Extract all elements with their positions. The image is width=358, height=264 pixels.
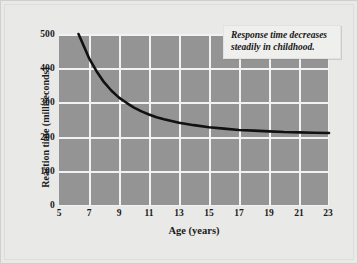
- x-tick-label: 5: [46, 208, 72, 218]
- annotation-line-1: Response time decreases: [231, 30, 327, 40]
- x-tick-label: 7: [76, 208, 102, 218]
- plot-area: [59, 34, 329, 206]
- x-axis-title: Age (years): [59, 225, 329, 236]
- y-tick-label: 400: [15, 63, 55, 73]
- y-tick-label: 500: [15, 29, 55, 39]
- chart-figure: Reaction time (milliseconds) 500 400 300…: [0, 0, 358, 264]
- x-tick-label: 11: [136, 208, 162, 218]
- annotation-text: Response time decreases steadily in chil…: [231, 30, 335, 53]
- x-tick-label: 9: [106, 208, 132, 218]
- x-tick-label: 23: [315, 208, 341, 218]
- y-axis-tick-labels: 500 400 300 200 100 0: [9, 34, 55, 206]
- annotation-callout: Response time decreases steadily in chil…: [223, 25, 341, 59]
- x-tick-label: 19: [256, 208, 282, 218]
- x-tick-label: 21: [286, 208, 312, 218]
- x-tick-label: 13: [166, 208, 192, 218]
- x-tick-label: 15: [196, 208, 222, 218]
- annotation-line-2: steadily in childhood.: [231, 42, 315, 52]
- y-tick-label: 100: [15, 166, 55, 176]
- y-tick-label: 200: [15, 132, 55, 142]
- y-tick-label: 300: [15, 97, 55, 107]
- x-axis-tick-labels: 5 7 9 11 13 15 17 19 21 23: [59, 208, 329, 224]
- reaction-time-curve: [59, 34, 329, 206]
- x-tick-label: 17: [226, 208, 252, 218]
